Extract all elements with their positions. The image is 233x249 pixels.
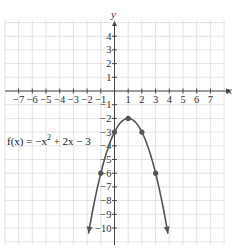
- y-axis-label: y: [110, 8, 116, 20]
- svg-text:1: 1: [106, 72, 111, 83]
- axes: [5, 21, 231, 245]
- svg-text:−9: −9: [100, 209, 111, 220]
- svg-text:2: 2: [139, 94, 144, 105]
- svg-text:−5: −5: [40, 94, 51, 105]
- svg-text:−2: −2: [82, 94, 93, 105]
- parabola-graph: −7−6−5−4−3−2−112345674321−1−2−3−4−5−6−7−…: [0, 0, 233, 249]
- svg-text:5: 5: [180, 94, 185, 105]
- svg-text:−6: −6: [27, 94, 38, 105]
- svg-text:−1: −1: [100, 99, 111, 110]
- x-axis-label: x: [226, 84, 232, 96]
- svg-text:3: 3: [153, 94, 158, 105]
- svg-text:−7: −7: [13, 94, 24, 105]
- svg-text:−3: −3: [68, 94, 79, 105]
- svg-text:−8: −8: [100, 195, 111, 206]
- svg-text:−7: −7: [100, 181, 111, 192]
- svg-text:3: 3: [106, 44, 111, 55]
- svg-text:4: 4: [167, 94, 173, 105]
- svg-text:−3: −3: [100, 127, 111, 138]
- svg-text:2: 2: [106, 58, 111, 69]
- svg-text:7: 7: [208, 94, 213, 105]
- svg-text:−2: −2: [100, 113, 111, 124]
- svg-text:1: 1: [126, 94, 131, 105]
- svg-text:4: 4: [106, 31, 112, 42]
- svg-text:−10: −10: [95, 223, 111, 234]
- svg-text:−4: −4: [54, 94, 66, 105]
- svg-text:6: 6: [194, 94, 199, 105]
